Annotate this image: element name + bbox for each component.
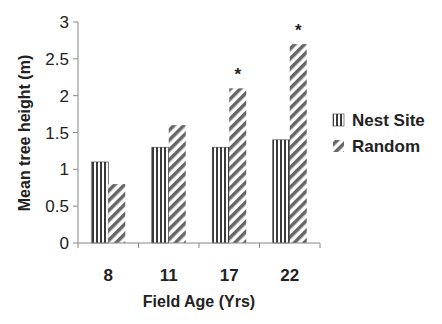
significance-star: * <box>295 21 302 40</box>
y-tick-label: 1.5 <box>45 124 69 143</box>
bar-random <box>169 125 186 243</box>
chart-canvas: Mean tree height (m) 00.511.522.53 ** 81… <box>0 0 442 324</box>
x-tick-label: 17 <box>220 266 239 285</box>
legend: Nest SiteRandom <box>333 111 425 156</box>
bar-nest-site <box>152 147 169 243</box>
bar-nest-site <box>212 147 229 243</box>
x-tick-label: 11 <box>160 266 178 285</box>
y-tick-label: 2.5 <box>45 50 69 69</box>
x-tick-label: 22 <box>280 266 299 285</box>
x-axis: 8111722 <box>78 243 320 285</box>
bar-random <box>290 44 307 243</box>
bars: ** <box>91 21 307 243</box>
x-tick-label: 8 <box>104 266 113 285</box>
bar-random <box>229 88 246 243</box>
bar-random <box>108 184 125 243</box>
legend-swatch <box>333 114 344 126</box>
y-tick-label: 0.5 <box>45 197 69 216</box>
bar-nest-site <box>91 162 108 243</box>
y-tick-label: 3 <box>60 13 69 32</box>
x-axis-label: Field Age (Yrs) <box>143 293 255 310</box>
y-tick-label: 2 <box>60 87 69 106</box>
significance-star: * <box>234 65 241 84</box>
legend-swatch <box>333 140 344 152</box>
y-axis-label: Mean tree height (m) <box>16 55 33 211</box>
y-tick-label: 1 <box>60 160 69 179</box>
bar-nest-site <box>273 140 290 243</box>
legend-label: Nest Site <box>352 111 425 130</box>
svg-text:Mean tree height (m): Mean tree height (m) <box>16 55 33 211</box>
y-axis: 00.511.522.53 <box>45 13 78 253</box>
y-tick-label: 0 <box>60 234 69 253</box>
legend-label: Random <box>352 137 420 156</box>
